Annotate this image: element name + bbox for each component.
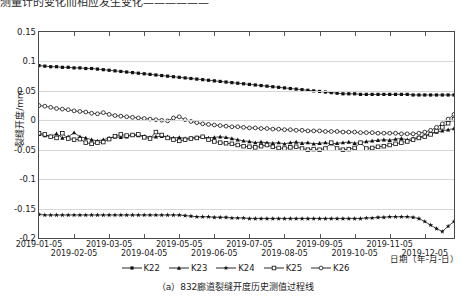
data-point-marker (107, 137, 111, 141)
data-point-marker (153, 212, 158, 217)
data-point-marker (124, 212, 129, 217)
data-point-marker (229, 215, 234, 220)
data-point-marker (206, 214, 211, 219)
data-point-marker (259, 140, 263, 144)
data-point-marker (177, 139, 181, 143)
data-point-marker (142, 212, 147, 217)
data-point-marker (270, 216, 275, 221)
data-point-marker (347, 140, 351, 144)
data-point-marker (102, 68, 105, 71)
data-point-marker (429, 93, 432, 96)
data-point-marker (137, 72, 140, 75)
grid-line (39, 91, 454, 92)
data-point-marker (452, 126, 454, 130)
data-point-marker (300, 216, 305, 221)
x-tick-label: 2019-10-05 (331, 249, 378, 258)
data-point-marker (160, 133, 164, 137)
x-tick-mark (74, 234, 75, 238)
figure-caption: （a）832廊道裂缝开度历史测值过程线 (0, 280, 471, 293)
chart-canvas (39, 32, 454, 238)
x-tick-mark (74, 32, 75, 36)
data-point-marker (248, 126, 252, 130)
data-point-marker (195, 77, 198, 80)
data-point-marker (159, 212, 164, 217)
data-point-marker (335, 130, 339, 134)
data-point-marker (382, 93, 385, 96)
data-point-marker (213, 79, 216, 82)
data-point-marker (39, 64, 41, 67)
data-point-marker (405, 214, 410, 219)
data-point-marker (131, 115, 135, 119)
data-point-marker (101, 212, 106, 217)
x-tick-mark (249, 32, 250, 36)
x-tick-label: 2019-08-05 (261, 249, 308, 258)
legend-item-K26[interactable]: K26 (311, 263, 349, 273)
data-point-marker (48, 212, 53, 217)
data-point-marker (370, 131, 374, 135)
series-K25 (39, 117, 454, 151)
data-point-marker (289, 87, 292, 90)
data-point-marker (329, 141, 333, 145)
data-point-marker (108, 69, 111, 72)
data-point-marker (119, 70, 122, 73)
x-tick-mark (320, 234, 321, 238)
data-point-marker (271, 145, 275, 149)
data-point-marker (219, 80, 222, 83)
data-point-marker (201, 122, 205, 126)
data-point-marker (405, 132, 409, 136)
data-point-marker (101, 140, 105, 144)
data-point-marker (399, 132, 403, 136)
data-point-marker (107, 212, 112, 217)
data-point-marker (113, 134, 117, 138)
x-tick-label: 2019-06-05 (191, 249, 238, 258)
data-point-marker (236, 82, 239, 85)
data-point-marker (329, 130, 333, 134)
data-point-marker (294, 216, 299, 221)
data-point-marker (136, 212, 141, 217)
data-point-marker (265, 127, 269, 131)
data-point-marker (189, 137, 193, 141)
data-point-marker (89, 212, 94, 217)
grid-line (39, 179, 454, 180)
data-point-marker (224, 141, 228, 145)
data-point-marker (224, 215, 229, 220)
series-K24 (39, 212, 454, 234)
data-point-marker (43, 133, 47, 137)
data-point-marker (230, 125, 234, 129)
data-point-marker (218, 141, 222, 145)
data-point-marker (42, 212, 47, 217)
data-point-marker (347, 92, 350, 95)
legend-item-K22[interactable]: K22 (122, 263, 160, 273)
data-point-marker (248, 145, 252, 149)
data-point-marker (242, 144, 246, 148)
x-tick-mark (109, 234, 110, 238)
x-tick-mark (214, 234, 215, 238)
data-point-marker (39, 212, 41, 217)
data-point-marker (294, 140, 298, 144)
data-point-marker (300, 128, 304, 132)
data-point-marker (376, 93, 379, 96)
data-point-marker (435, 125, 439, 129)
plot-area (38, 31, 455, 239)
data-point-marker (177, 135, 181, 139)
data-point-marker (72, 212, 77, 217)
data-point-marker (84, 67, 87, 70)
data-point-marker (207, 138, 211, 142)
legend-item-K23[interactable]: K23 (169, 263, 207, 273)
legend-item-K24[interactable]: K24 (216, 263, 254, 273)
data-point-marker (113, 69, 116, 72)
data-point-marker (317, 216, 322, 221)
data-point-marker (370, 215, 375, 220)
legend-item-K25[interactable]: K25 (264, 263, 302, 273)
data-point-marker (411, 132, 415, 136)
x-tick-mark (284, 32, 285, 36)
data-point-marker (125, 115, 129, 119)
data-point-marker (184, 76, 187, 79)
data-point-marker (154, 73, 157, 76)
data-point-marker (54, 212, 59, 217)
data-point-marker (125, 134, 129, 138)
data-point-marker (49, 65, 52, 68)
data-point-marker (43, 104, 47, 108)
data-point-marker (201, 135, 205, 139)
data-point-marker (277, 127, 281, 131)
